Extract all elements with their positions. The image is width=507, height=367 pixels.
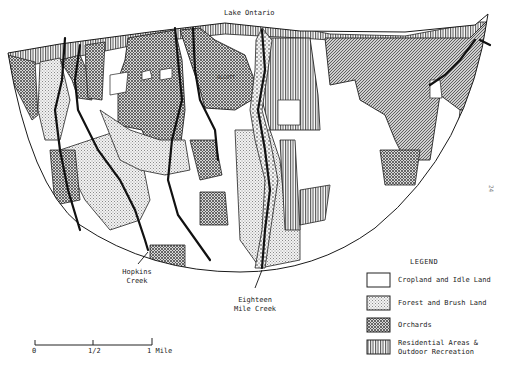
hopkins-creek-line2: Creek (117, 277, 157, 286)
legend-label-residential-line1: Residential Areas & (398, 339, 478, 348)
legend-label-residential: Residential Areas & Outdoor Recreation (398, 339, 478, 357)
hopkins-creek-line1: Hopkins (117, 268, 157, 277)
legend-label-orchards: Orchards (398, 321, 432, 330)
lake-ontario-label: Lake Ontario (224, 9, 275, 18)
hopkins-creek-label: Hopkins Creek (117, 268, 157, 286)
scale-label-0: 0 (32, 347, 36, 355)
page-number: 24 (488, 185, 495, 192)
legend-swatch-orchards (367, 318, 390, 332)
eighteen-mile-pointer (255, 270, 262, 288)
eighteen-mile-creek-label: Eighteen Mile Creek (225, 296, 285, 314)
legend-swatch-cropland (367, 273, 390, 287)
legend-swatch-forest (367, 296, 390, 310)
scale-label-1-mile: 1 Mile (147, 347, 172, 355)
eighteen-mile-creek-line2: Mile Creek (225, 305, 285, 314)
scale-bar (35, 338, 152, 345)
olcott-label: OLCOTT (217, 73, 235, 82)
legend-label-cropland: Cropland and Idle Land (398, 276, 491, 285)
legend-label-residential-line2: Outdoor Recreation (398, 348, 478, 357)
eighteen-mile-creek-line1: Eighteen (225, 296, 285, 305)
legend-label-forest: Forest and Brush Land (398, 299, 487, 308)
scale-label-half: 1/2 (88, 347, 101, 355)
legend-title: LEGEND (410, 258, 438, 266)
legend-swatch-residential (367, 340, 390, 354)
